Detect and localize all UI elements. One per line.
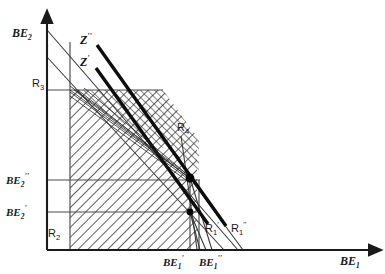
r1dp-sub: 1 xyxy=(239,228,243,237)
be2dp-sub: 2 xyxy=(20,180,25,189)
r3-sub: 3 xyxy=(40,83,44,92)
be2p-sub: 2 xyxy=(20,212,25,221)
svg-text:BE1': BE1' xyxy=(162,254,184,271)
r1dp-prime: '' xyxy=(243,220,247,229)
r1p-sub: 1 xyxy=(213,228,217,237)
r4-text: R xyxy=(177,121,185,133)
y-axis-label-text: BE xyxy=(11,26,28,40)
be1dp-sub: 1 xyxy=(214,262,218,271)
x-tick-label-be1-single-prime: BE1' xyxy=(162,254,184,271)
node-upper xyxy=(186,174,195,183)
svg-text:BE2': BE2' xyxy=(5,204,27,221)
z-dp-prime: '' xyxy=(87,32,92,41)
be2dp-base: BE xyxy=(5,174,21,186)
x-axis-label-text: BE xyxy=(339,254,356,268)
svg-text:R3: R3 xyxy=(32,77,44,92)
be1p-prime: ' xyxy=(181,254,184,263)
x-tick-label-be1-double-prime: BE1'' xyxy=(198,254,223,271)
y-axis-label-sub: 2 xyxy=(27,33,32,42)
svg-text:R1'': R1'' xyxy=(231,220,247,237)
label-r2: R2 xyxy=(48,227,60,242)
r1dp-text: R xyxy=(231,222,239,234)
be2dp-prime: '' xyxy=(24,172,29,181)
be1p-base: BE xyxy=(162,256,178,268)
label-r1-double-prime: R1'' xyxy=(231,220,247,237)
label-r3: R3 xyxy=(32,77,44,92)
y-axis-label: BE2 xyxy=(11,26,32,42)
r2-sub: 2 xyxy=(56,233,60,242)
be2p-prime: ' xyxy=(24,204,27,213)
svg-text:Z': Z' xyxy=(79,54,90,69)
x-axis-label-sub: 1 xyxy=(356,261,360,270)
x-axis-label: BE1 xyxy=(339,254,360,270)
svg-text:BE2'': BE2'' xyxy=(5,172,30,189)
be2p-base: BE xyxy=(5,206,21,218)
label-z-double-prime: Z'' xyxy=(79,32,93,47)
svg-text:BE1: BE1 xyxy=(339,254,360,270)
r2-text: R xyxy=(48,227,56,239)
r4-sub: 4 xyxy=(185,127,189,136)
svg-text:Z'': Z'' xyxy=(79,32,93,47)
r1p-text: R xyxy=(205,222,213,234)
be1dp-prime: '' xyxy=(217,254,222,263)
svg-text:BE1'': BE1'' xyxy=(198,254,223,271)
diagram-canvas: BE2 BE1 BE2'' BE2' BE1' BE1'' Z'' Z' R1' xyxy=(0,0,385,274)
z-p-prime: ' xyxy=(87,54,90,63)
node-lower xyxy=(187,209,194,216)
be1p-sub: 1 xyxy=(178,262,182,271)
svg-text:BE2: BE2 xyxy=(11,26,32,42)
y-tick-label-be2-single-prime: BE2' xyxy=(5,204,27,221)
be1dp-base: BE xyxy=(198,256,214,268)
svg-text:R2: R2 xyxy=(48,227,60,242)
label-z-single-prime: Z' xyxy=(79,54,90,69)
economic-diagram-svg: BE2 BE1 BE2'' BE2' BE1' BE1'' Z'' Z' R1' xyxy=(0,0,385,274)
r3-text: R xyxy=(32,77,40,89)
y-tick-label-be2-double-prime: BE2'' xyxy=(5,172,30,189)
